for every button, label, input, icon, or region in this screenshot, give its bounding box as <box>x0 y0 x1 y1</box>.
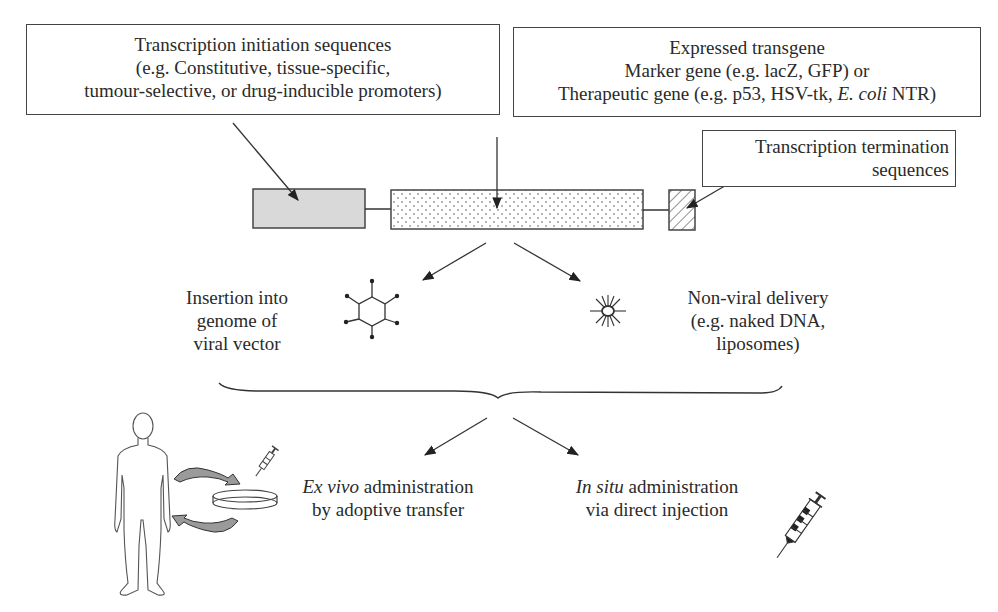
transgene-title: Expressed transgene <box>514 36 980 59</box>
human-figure-icon <box>115 413 171 595</box>
virus-hexagon-icon <box>344 279 399 339</box>
terminator-segment <box>669 190 695 230</box>
termination-sub: sequences <box>703 158 949 181</box>
transgene-segment <box>391 190 643 229</box>
arrow-to-nonviral <box>514 243 580 281</box>
arrow-to-in-situ <box>513 418 578 455</box>
marker-gene-text: Marker gene (e.g. lacZ, GFP) or <box>514 59 980 82</box>
merge-brace <box>219 383 782 398</box>
syringe-icon <box>771 491 828 562</box>
viral-vector-label: Insertion into genome of viral vector <box>170 286 304 355</box>
initiation-sequences-box: Transcription initiation sequences (e.g.… <box>26 24 500 115</box>
initiation-examples-2: tumour-selective, or drug-inducible prom… <box>27 79 499 102</box>
termination-sequences-box: Transcription termination sequences <box>702 130 956 187</box>
initiation-title: Transcription initiation sequences <box>27 33 499 56</box>
petri-dish-icon <box>213 490 277 509</box>
therapeutic-gene-text: Therapeutic gene (e.g. p53, HSV-tk, E. c… <box>514 82 980 105</box>
non-viral-delivery-label: Non-viral delivery (e.g. naked DNA, lipo… <box>670 286 846 355</box>
promoter-segment <box>253 189 365 228</box>
initiation-examples-1: (e.g. Constitutive, tissue-specific, <box>27 56 499 79</box>
arrow-to-viral <box>423 243 486 280</box>
expressed-transgene-box: Expressed transgene Marker gene (e.g. la… <box>513 27 981 117</box>
cycle-arrows-icon <box>172 468 240 532</box>
syringe-icon <box>253 446 279 478</box>
liposome-icon <box>590 295 626 327</box>
termination-title: Transcription termination <box>703 135 949 158</box>
in-situ-label: In situ administration via direct inject… <box>552 475 762 521</box>
arrow-to-ex-vivo <box>425 418 487 455</box>
gene-construct <box>253 189 695 230</box>
ex-vivo-label: Ex vivo administration by adoptive trans… <box>278 475 498 521</box>
